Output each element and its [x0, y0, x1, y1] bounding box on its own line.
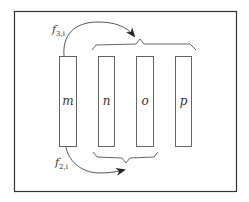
bottom-brace — [93, 152, 158, 163]
box-n-label: n — [103, 94, 111, 108]
top-brace — [92, 39, 196, 50]
arrow-f2-label: f2,i — [54, 156, 69, 171]
box-p-label: p — [180, 94, 188, 108]
arrow-f3-label: f3,i — [51, 23, 66, 38]
box-p: p — [176, 57, 192, 147]
arrow-f3 — [64, 22, 134, 56]
box-n: n — [99, 57, 115, 147]
arrow-f2 — [66, 147, 124, 173]
box-m: m — [60, 57, 77, 147]
box-o: o — [137, 57, 154, 147]
diagram-canvas: m n o p f3,i f2,i — [0, 0, 249, 202]
box-m-label: m — [62, 94, 73, 108]
box-o-label: o — [141, 94, 148, 108]
outer-frame — [15, 12, 237, 192]
